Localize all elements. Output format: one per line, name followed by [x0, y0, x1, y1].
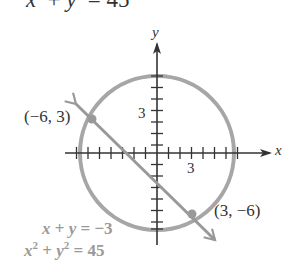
- legend-circle-x: x: [24, 241, 33, 260]
- point-label-2: (3, −6): [214, 201, 260, 221]
- x-axis-label: x: [275, 142, 282, 159]
- intersection-point-1: [88, 115, 97, 124]
- point-label-1: (−6, 3): [24, 107, 70, 127]
- x-tick-label: 3: [187, 160, 195, 177]
- y-axis-label: y: [152, 24, 159, 41]
- legend-line-equation: x + y = −3: [42, 219, 113, 239]
- intersection-point-2: [188, 210, 197, 219]
- y-tick-label: 3: [138, 105, 146, 122]
- legend-circle-rhs: = 45: [69, 241, 104, 260]
- diagram-page: x2 + y2 = 45: [0, 0, 285, 276]
- legend-circle-plus: +: [38, 241, 56, 260]
- legend-line-plus: +: [51, 219, 69, 238]
- legend-line-rhs: = −3: [76, 219, 112, 238]
- legend-line-x: x: [42, 219, 51, 238]
- legend-circle-equation: x2 + y2 = 45: [24, 241, 104, 261]
- legend-circle-y: y: [56, 241, 64, 260]
